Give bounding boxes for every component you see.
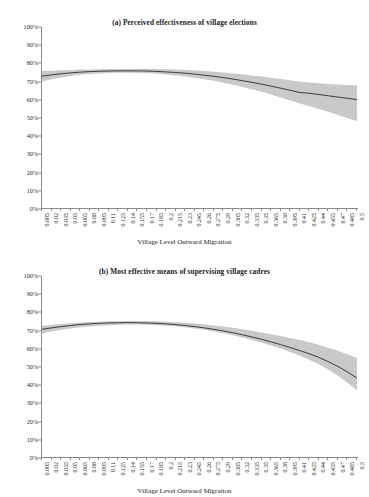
x-tick-label: 0.395 xyxy=(292,213,298,227)
x-tick-label: 0.17 xyxy=(149,213,155,224)
x-tick-label: 0.305 xyxy=(235,213,241,227)
y-tick-mark xyxy=(38,439,41,440)
y-tick-mark xyxy=(38,136,41,137)
y-tick-mark xyxy=(38,99,41,100)
x-tick-mark xyxy=(127,208,128,211)
x-tick-label: 0.215 xyxy=(177,462,183,476)
x-tick-mark xyxy=(184,457,185,460)
x-tick-label: 0.425 xyxy=(311,462,317,476)
x-tick-label: 0.245 xyxy=(196,462,202,476)
y-tick-mark xyxy=(38,330,41,331)
x-tick-mark xyxy=(280,208,281,211)
y-tick-mark xyxy=(38,63,41,64)
panel-b-x-axis-title: Village Level Outward Migration xyxy=(0,487,369,495)
y-tick-mark xyxy=(38,367,41,368)
x-tick-mark xyxy=(356,208,357,211)
x-tick-mark xyxy=(194,208,195,211)
x-tick-mark xyxy=(318,208,319,211)
x-tick-mark xyxy=(89,457,90,460)
x-tick-label: 0.005 xyxy=(44,462,50,476)
x-tick-label: 0.305 xyxy=(235,462,241,476)
y-tick-label: 40% xyxy=(27,382,38,388)
x-tick-label: 0.125 xyxy=(120,462,126,476)
x-tick-mark xyxy=(213,208,214,211)
y-tick-mark xyxy=(38,276,41,277)
figure-container: (a) Perceived effectiveness of village e… xyxy=(0,0,369,497)
panel-a: (a) Perceived effectiveness of village e… xyxy=(0,0,369,248)
y-tick-label: 30% xyxy=(27,151,38,157)
y-tick-label: 0% xyxy=(30,206,38,212)
y-tick-label: 60% xyxy=(27,346,38,352)
x-tick-label: 0.08 xyxy=(91,213,97,224)
x-tick-label: 0.5 xyxy=(359,462,365,470)
x-tick-mark xyxy=(308,208,309,211)
confidence-band-and-line xyxy=(42,27,357,209)
y-tick-mark xyxy=(38,312,41,313)
x-tick-label: 0.155 xyxy=(139,462,145,476)
x-tick-mark xyxy=(117,208,118,211)
x-tick-label: 0.185 xyxy=(158,462,164,476)
x-tick-mark xyxy=(299,208,300,211)
x-tick-mark xyxy=(136,457,137,460)
x-tick-label: 0.335 xyxy=(254,462,260,476)
x-tick-label: 0.11 xyxy=(110,462,116,472)
x-tick-label: 0.44 xyxy=(320,462,326,473)
x-tick-mark xyxy=(175,208,176,211)
x-tick-mark xyxy=(156,457,157,460)
x-tick-label: 0.14 xyxy=(130,462,136,473)
y-tick-label: 10% xyxy=(27,437,38,443)
x-tick-mark xyxy=(70,208,71,211)
y-tick-label: 80% xyxy=(27,60,38,66)
x-tick-mark xyxy=(203,208,204,211)
x-tick-mark xyxy=(289,208,290,211)
panel-a-title: (a) Perceived effectiveness of village e… xyxy=(0,18,369,27)
x-tick-mark xyxy=(289,457,290,460)
x-tick-label: 0.485 xyxy=(349,462,355,476)
x-tick-mark xyxy=(270,457,271,460)
x-tick-label: 0.065 xyxy=(82,462,88,476)
x-tick-label: 0.47 xyxy=(340,462,346,473)
x-tick-label: 0.395 xyxy=(292,462,298,476)
x-tick-mark xyxy=(222,457,223,460)
x-tick-mark xyxy=(98,208,99,211)
x-tick-label: 0.11 xyxy=(110,213,116,223)
x-tick-mark xyxy=(270,208,271,211)
x-tick-mark xyxy=(241,208,242,211)
confidence-interval-band xyxy=(42,321,357,390)
x-tick-label: 0.455 xyxy=(330,462,336,476)
x-tick-mark xyxy=(108,457,109,460)
panel-b: (b) Most effective means of supervising … xyxy=(0,249,369,497)
x-tick-mark xyxy=(308,457,309,460)
x-tick-label: 0.2 xyxy=(168,462,174,470)
x-tick-mark xyxy=(165,208,166,211)
x-tick-mark xyxy=(175,457,176,460)
x-tick-label: 0.23 xyxy=(187,213,193,224)
x-tick-label: 0.035 xyxy=(63,213,69,227)
x-tick-label: 0.275 xyxy=(215,462,221,476)
x-tick-mark xyxy=(70,457,71,460)
x-tick-mark xyxy=(203,457,204,460)
x-tick-label: 0.38 xyxy=(282,213,288,224)
y-tick-mark xyxy=(38,190,41,191)
x-tick-label: 0.095 xyxy=(101,213,107,227)
x-tick-mark xyxy=(194,457,195,460)
y-tick-label: 100% xyxy=(24,24,38,30)
x-tick-mark xyxy=(346,208,347,211)
y-tick-label: 50% xyxy=(27,115,38,121)
x-tick-mark xyxy=(318,457,319,460)
y-tick-mark xyxy=(38,403,41,404)
x-tick-mark xyxy=(261,208,262,211)
x-tick-mark xyxy=(79,457,80,460)
confidence-band-and-line xyxy=(42,276,357,458)
x-tick-mark xyxy=(232,208,233,211)
x-tick-label: 0.29 xyxy=(225,462,231,473)
x-tick-mark xyxy=(213,457,214,460)
x-tick-label: 0.185 xyxy=(158,213,164,227)
x-tick-mark xyxy=(241,457,242,460)
x-tick-mark xyxy=(98,457,99,460)
y-tick-label: 50% xyxy=(27,364,38,370)
x-tick-label: 0.08 xyxy=(91,462,97,473)
y-tick-label: 80% xyxy=(27,309,38,315)
panel-b-plot-area xyxy=(42,276,357,458)
x-tick-label: 0.05 xyxy=(72,462,78,473)
